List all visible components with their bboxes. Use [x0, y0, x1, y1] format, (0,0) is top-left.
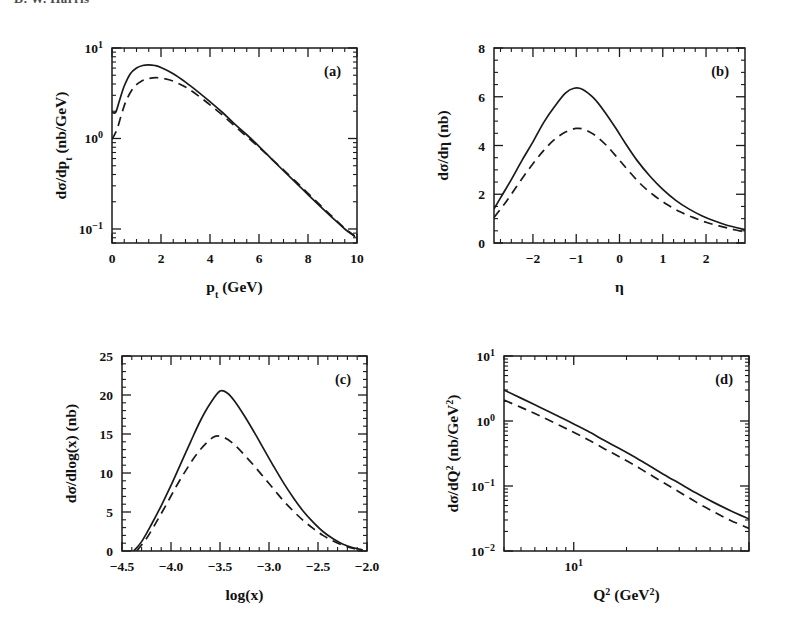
y-tick-label: 10−1: [79, 219, 103, 237]
plot-frame: [112, 48, 357, 243]
y-tick-label: 4: [478, 139, 485, 154]
y-tick-label: 20: [100, 388, 114, 403]
x-tick-label: −2: [526, 251, 541, 266]
curve-solid: [504, 390, 749, 519]
panel-a: 024681010110010−1(a)pt (GeV)dσ/dpt (nb/G…: [0, 22, 394, 322]
panel-b-svg: −2−101202468(b)ηdσ/dη (nb): [394, 22, 789, 322]
x-tick-label: −3.0: [257, 559, 282, 574]
x-tick-label: 2: [158, 251, 165, 266]
x-tick-label: −3.5: [208, 559, 233, 574]
y-tick-label: 100: [85, 129, 104, 147]
svg-text:η: η: [615, 278, 624, 295]
panel-c: −4.5−4.0−3.5−3.0−2.5−2.00510152025(c)log…: [0, 330, 394, 630]
x-tick-label: 4: [207, 251, 214, 266]
y-tick-label: 10: [100, 466, 114, 481]
svg-text:dσ/dlog(x) (nb): dσ/dlog(x) (nb): [62, 404, 80, 503]
svg-text:log(x): log(x): [226, 586, 264, 604]
figure-root: D. W. Harris 024681010110010−1(a)pt (GeV…: [0, 0, 789, 636]
svg-text:dσ/dQ2 (nb/GeV2): dσ/dQ2 (nb/GeV2): [444, 395, 463, 513]
y-tick-label: 15: [100, 427, 114, 442]
curve-dashed: [112, 78, 355, 236]
y-tick-label: 8: [478, 41, 485, 56]
y-tick-label: 101: [477, 347, 496, 365]
y-tick-label: 10−1: [471, 477, 495, 495]
x-tick-label: −2.0: [355, 559, 380, 574]
panel-tag: (b): [711, 63, 729, 80]
x-tick-label: 10: [350, 251, 364, 266]
panel-a-svg: 024681010110010−1(a)pt (GeV)dσ/dpt (nb/G…: [0, 22, 394, 322]
panel-tag: (a): [324, 63, 341, 80]
x-tick-label: 0: [616, 251, 623, 266]
y-tick-label: 0: [106, 544, 113, 559]
panel-tag: (d): [715, 371, 733, 388]
y-tick-label: 0: [478, 236, 485, 251]
x-tick-label: 101: [564, 557, 583, 575]
y-tick-label: 25: [100, 349, 114, 364]
panel-d-svg: 10110110010−110−2(d)Q2 (GeV2)dσ/dQ2 (nb/…: [394, 330, 789, 630]
plot-frame: [122, 356, 367, 551]
y-tick-label: 6: [478, 90, 485, 105]
panel-d: 10110110010−110−2(d)Q2 (GeV2)dσ/dQ2 (nb/…: [394, 330, 789, 630]
x-tick-label: 2: [703, 251, 710, 266]
y-tick-label: 10−2: [471, 542, 495, 560]
svg-text:Q2 (GeV2): Q2 (GeV2): [593, 586, 659, 605]
x-tick-label: −4.0: [159, 559, 184, 574]
curve-dashed: [137, 436, 362, 551]
svg-text:dσ/dη (nb): dσ/dη (nb): [434, 110, 452, 180]
y-tick-label: 2: [478, 187, 485, 202]
curve-solid: [112, 65, 355, 236]
curve-solid: [134, 391, 362, 551]
x-tick-label: −4.5: [110, 559, 135, 574]
curve-dashed: [504, 400, 749, 528]
panel-tag: (c): [335, 371, 351, 388]
y-tick-label: 100: [477, 412, 496, 430]
x-tick-label: 1: [659, 251, 666, 266]
x-tick-label: 6: [256, 251, 263, 266]
x-tick-label: 8: [305, 251, 312, 266]
running-header: D. W. Harris: [14, 0, 90, 7]
x-tick-label: −1: [569, 251, 584, 266]
plot-frame: [504, 356, 749, 551]
x-tick-label: 0: [109, 251, 116, 266]
panel-c-svg: −4.5−4.0−3.5−3.0−2.5−2.00510152025(c)log…: [0, 330, 394, 630]
y-tick-label: 5: [106, 505, 113, 520]
curve-solid: [494, 88, 745, 230]
y-tick-label: 101: [85, 39, 104, 57]
svg-text:pt (GeV): pt (GeV): [206, 278, 262, 300]
x-tick-label: −2.5: [306, 559, 331, 574]
panel-b: −2−101202468(b)ηdσ/dη (nb): [394, 22, 789, 322]
svg-text:dσ/dpt (nb/GeV): dσ/dpt (nb/GeV): [52, 92, 74, 200]
